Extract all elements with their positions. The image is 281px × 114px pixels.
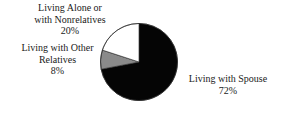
slice-label-living-with-spouse: Living with Spouse 72% [176, 73, 280, 96]
slice-label-line: Living Alone or [10, 2, 130, 14]
slice-label-line: Living with Spouse [176, 73, 280, 85]
slice-value-label: 72% [176, 85, 280, 97]
pie-graphic [100, 23, 178, 101]
slice-label-line: Living with Other [0, 42, 115, 54]
slice-label-other-relatives: Living with Other Relatives 8% [0, 42, 115, 77]
slice-value-label: 8% [0, 65, 115, 77]
pie-svg [100, 23, 178, 101]
pie-chart-figure: Living Alone or with Nonrelatives 20% Li… [0, 0, 281, 114]
slice-label-line: Relatives [0, 54, 115, 66]
